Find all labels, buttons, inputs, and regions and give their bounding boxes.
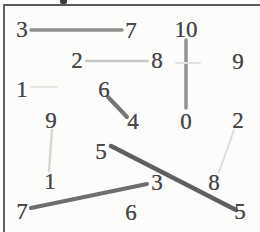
number-label-9: 9 bbox=[232, 50, 244, 73]
number-label-9: 9 bbox=[45, 109, 57, 132]
number-label-1: 1 bbox=[16, 78, 28, 101]
number-label-5: 5 bbox=[95, 140, 107, 163]
number-label-3: 3 bbox=[151, 171, 163, 194]
number-label-2: 2 bbox=[232, 109, 244, 132]
number-label-8: 8 bbox=[208, 171, 220, 194]
number-label-6: 6 bbox=[125, 201, 137, 224]
number-label-7: 7 bbox=[16, 200, 28, 223]
number-label-10: 10 bbox=[175, 18, 198, 41]
number-label-6: 6 bbox=[98, 78, 110, 101]
number-label-2: 2 bbox=[71, 49, 83, 72]
number-label-3: 3 bbox=[16, 18, 28, 41]
connection-line-2-8-right bbox=[219, 130, 234, 172]
number-label-8: 8 bbox=[151, 49, 163, 72]
number-label-4: 4 bbox=[127, 110, 139, 133]
number-label-1: 1 bbox=[44, 170, 56, 193]
scanned-number-matching-figure: 37281091640925138765 bbox=[0, 0, 260, 232]
number-label-5: 5 bbox=[234, 200, 246, 223]
number-label-7: 7 bbox=[125, 19, 137, 42]
connection-line-9-1 bbox=[49, 130, 52, 171]
number-label-0: 0 bbox=[180, 110, 192, 133]
connection-line-6-4 bbox=[108, 97, 127, 117]
